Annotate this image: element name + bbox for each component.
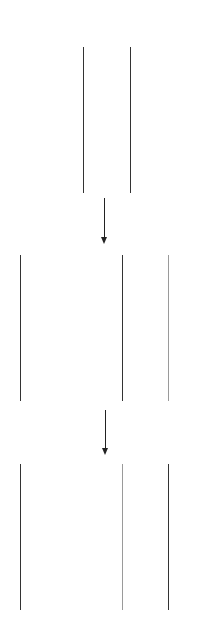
dna-backbone-right <box>130 47 131 193</box>
arrow-head-icon <box>102 448 108 455</box>
bottom-left-backbone <box>20 464 21 610</box>
arrow-denature <box>104 198 105 238</box>
arrow-head-icon <box>101 237 107 244</box>
rna-backbone <box>168 255 169 401</box>
dna-backbone-left <box>83 47 84 193</box>
hybrid-rna-backbone <box>122 464 123 610</box>
arrow-renature <box>105 410 106 450</box>
mid-right-backbone <box>122 255 123 401</box>
mid-left-backbone <box>20 255 21 401</box>
hybrid-dna-backbone <box>168 464 169 610</box>
